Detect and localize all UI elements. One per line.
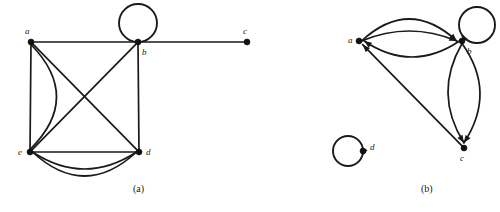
vertex-label-c: c bbox=[243, 27, 247, 36]
vertex-label-b: b bbox=[142, 48, 147, 57]
vertex-label-d: d bbox=[370, 143, 375, 152]
vertex-e bbox=[27, 149, 33, 155]
graph-a-canvas bbox=[0, 0, 260, 212]
vertex-c bbox=[461, 145, 467, 151]
graph-b-canvas bbox=[260, 0, 500, 212]
edge-a-b bbox=[362, 31, 457, 41]
edge-a-b bbox=[362, 19, 457, 41]
vertex-label-b: b bbox=[467, 47, 472, 56]
vertex-d bbox=[360, 148, 366, 154]
self-loop-b bbox=[119, 4, 157, 42]
vertex-b bbox=[459, 38, 465, 44]
vertex-label-a: a bbox=[25, 27, 30, 36]
edge-b-c bbox=[448, 43, 464, 142]
vertex-label-a: a bbox=[348, 36, 353, 45]
edge-a-e bbox=[30, 44, 56, 149]
panel-caption-b: (b) bbox=[421, 183, 433, 194]
edge-b-c bbox=[462, 43, 480, 142]
panel-b: abcd(b) bbox=[260, 0, 500, 212]
vertex-d bbox=[136, 149, 142, 155]
arrowhead-b-c bbox=[464, 135, 471, 143]
edge-e-d bbox=[33, 152, 137, 169]
panel-caption-a: (a) bbox=[133, 183, 144, 194]
vertex-label-c: c bbox=[460, 154, 464, 163]
vertex-a bbox=[28, 39, 34, 45]
edge-a-e bbox=[30, 44, 31, 149]
self-loop-d bbox=[333, 136, 363, 166]
vertex-label-d: d bbox=[146, 148, 151, 157]
vertex-a bbox=[356, 38, 362, 44]
edge-e-d bbox=[33, 152, 137, 176]
edge-b-a bbox=[364, 41, 459, 57]
edge-b-d bbox=[138, 44, 139, 149]
panel-a: abcde(a) bbox=[0, 0, 260, 212]
vertex-c bbox=[244, 39, 250, 45]
vertex-label-e: e bbox=[18, 148, 22, 157]
vertex-b bbox=[135, 39, 141, 45]
figure-graphs: abcde(a) abcd(b) bbox=[0, 0, 500, 212]
